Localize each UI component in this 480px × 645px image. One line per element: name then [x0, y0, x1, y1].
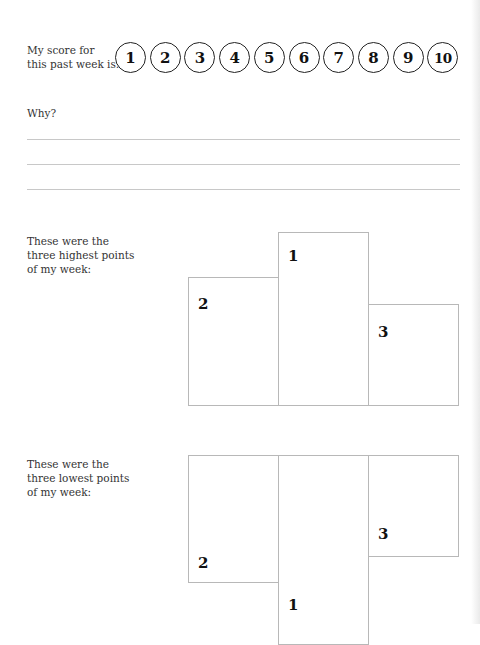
highest-points-label: These were the three highest points of m…: [27, 234, 134, 276]
rank-label: 2: [198, 295, 208, 313]
rank-label: 1: [288, 247, 298, 265]
score-option-2[interactable]: 2: [150, 42, 181, 73]
score-option-9[interactable]: 9: [393, 42, 424, 73]
score-option-1[interactable]: 1: [115, 42, 146, 73]
highest-box-1[interactable]: 1: [278, 232, 369, 406]
rank-label: 3: [378, 525, 388, 543]
score-option-8[interactable]: 8: [358, 42, 389, 73]
why-writing-line-2[interactable]: [27, 164, 460, 165]
lowest-box-2[interactable]: 2: [188, 455, 279, 583]
score-option-5[interactable]: 5: [254, 42, 285, 73]
score-option-3[interactable]: 3: [184, 42, 215, 73]
lowest-box-1[interactable]: 1: [278, 455, 369, 645]
score-option-7[interactable]: 7: [323, 42, 354, 73]
score-option-10[interactable]: 10: [427, 42, 458, 73]
score-label: My score for this past week is:: [27, 43, 119, 71]
page-edge-shadow: [471, 0, 480, 624]
score-option-4[interactable]: 4: [219, 42, 250, 73]
highest-box-2[interactable]: 2: [188, 277, 279, 406]
lowest-box-3[interactable]: 3: [368, 455, 459, 557]
why-writing-line-3[interactable]: [27, 189, 460, 190]
why-writing-line-1[interactable]: [27, 139, 460, 140]
score-option-6[interactable]: 6: [289, 42, 320, 73]
rank-label: 1: [288, 596, 298, 614]
rank-label: 2: [198, 554, 208, 572]
why-label: Why?: [27, 107, 56, 119]
rank-label: 3: [378, 323, 388, 341]
lowest-points-label: These were the three lowest points of my…: [27, 457, 129, 499]
highest-box-3[interactable]: 3: [368, 304, 459, 406]
